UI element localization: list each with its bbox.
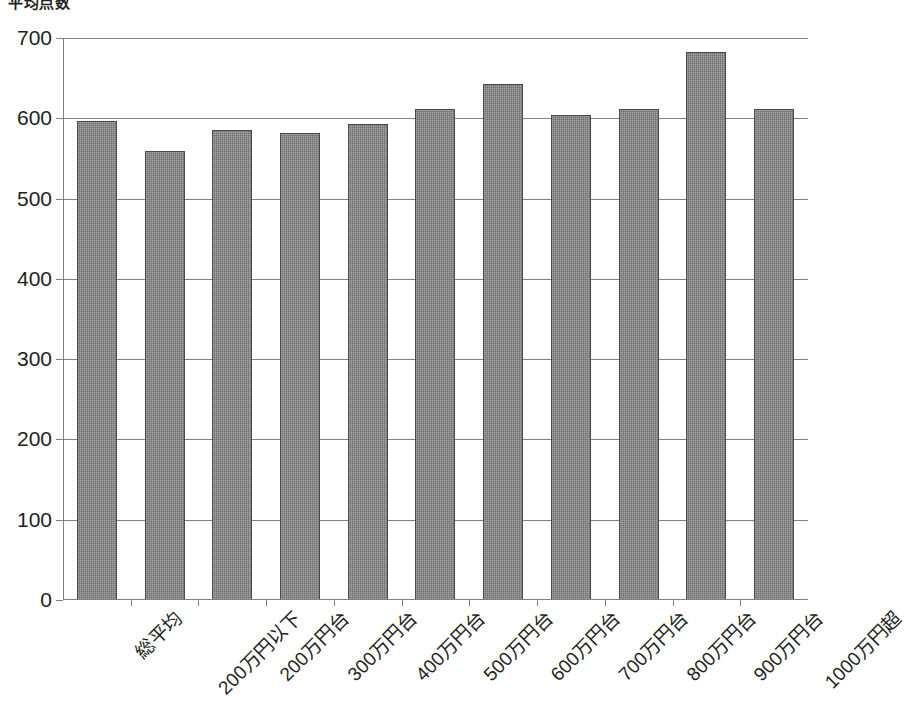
x-axis-tick-label: 総平均 [128, 604, 187, 663]
y-axis-tick [56, 118, 63, 119]
x-axis-tick-label: 400万円台 [408, 604, 490, 686]
y-axis-labels: 0100200300400500600700 [0, 38, 52, 600]
bar [551, 115, 591, 600]
bar-slot [334, 38, 402, 600]
y-axis-tick-label: 700 [17, 26, 52, 50]
bar [415, 109, 455, 600]
bar-slot [605, 38, 673, 600]
bar-slot [198, 38, 266, 600]
bar-slot [740, 38, 808, 600]
y-axis-tick-label: 300 [17, 347, 52, 371]
y-axis-tick [56, 520, 63, 521]
bar-slot [673, 38, 741, 600]
x-axis-labels: 総平均200万円以下200万円台300万円台400万円台500万円台600万円台… [63, 602, 808, 728]
bar-slot [469, 38, 537, 600]
y-axis-tick [56, 600, 63, 601]
y-axis-tick-label: 0 [40, 588, 52, 612]
x-axis-label-wrap: 700万円台 [611, 604, 693, 686]
x-axis-tick-label: 1000万円超 [817, 604, 906, 693]
x-axis-label-wrap: 500万円台 [475, 604, 557, 686]
x-axis-tick-label: 800万円台 [679, 604, 761, 686]
x-axis-line [63, 599, 808, 600]
bar [686, 52, 726, 600]
x-axis-label-wrap: 400万円台 [408, 604, 490, 686]
x-axis-label-wrap: 600万円台 [543, 604, 625, 686]
bar [77, 121, 117, 600]
bar [348, 124, 388, 600]
bar-slot [63, 38, 131, 600]
x-axis-label-wrap: 総平均 [128, 604, 187, 663]
y-axis-tick [56, 439, 63, 440]
bar [754, 109, 794, 600]
bar-slot [131, 38, 199, 600]
y-axis-tick-label: 500 [17, 187, 52, 211]
y-axis-tick [56, 279, 63, 280]
x-axis-tick-label: 700万円台 [611, 604, 693, 686]
x-axis-tick-label: 500万円台 [475, 604, 557, 686]
y-axis-tick [56, 359, 63, 360]
bar [280, 133, 320, 600]
bar [145, 151, 185, 600]
y-axis-tick-label: 200 [17, 427, 52, 451]
x-axis-tick-label: 600万円台 [543, 604, 625, 686]
x-axis-label-wrap: 800万円台 [679, 604, 761, 686]
x-axis-label-wrap: 1000万円超 [817, 604, 906, 693]
x-axis-tick-label: 300万円台 [340, 604, 422, 686]
bar-slot [402, 38, 470, 600]
bar [212, 130, 252, 600]
bar-slot [266, 38, 334, 600]
x-axis-label-wrap: 300万円台 [340, 604, 422, 686]
y-axis-tick [56, 199, 63, 200]
plot-area [63, 38, 808, 600]
bar [483, 84, 523, 600]
chart-title: 平均点数 [8, 0, 70, 12]
y-axis-tick-label: 600 [17, 106, 52, 130]
bar [619, 109, 659, 600]
bars-layer [63, 38, 808, 600]
bar-slot [537, 38, 605, 600]
y-axis-tick-label: 400 [17, 267, 52, 291]
y-axis-tick-label: 100 [17, 508, 52, 532]
y-axis-tick [56, 38, 63, 39]
